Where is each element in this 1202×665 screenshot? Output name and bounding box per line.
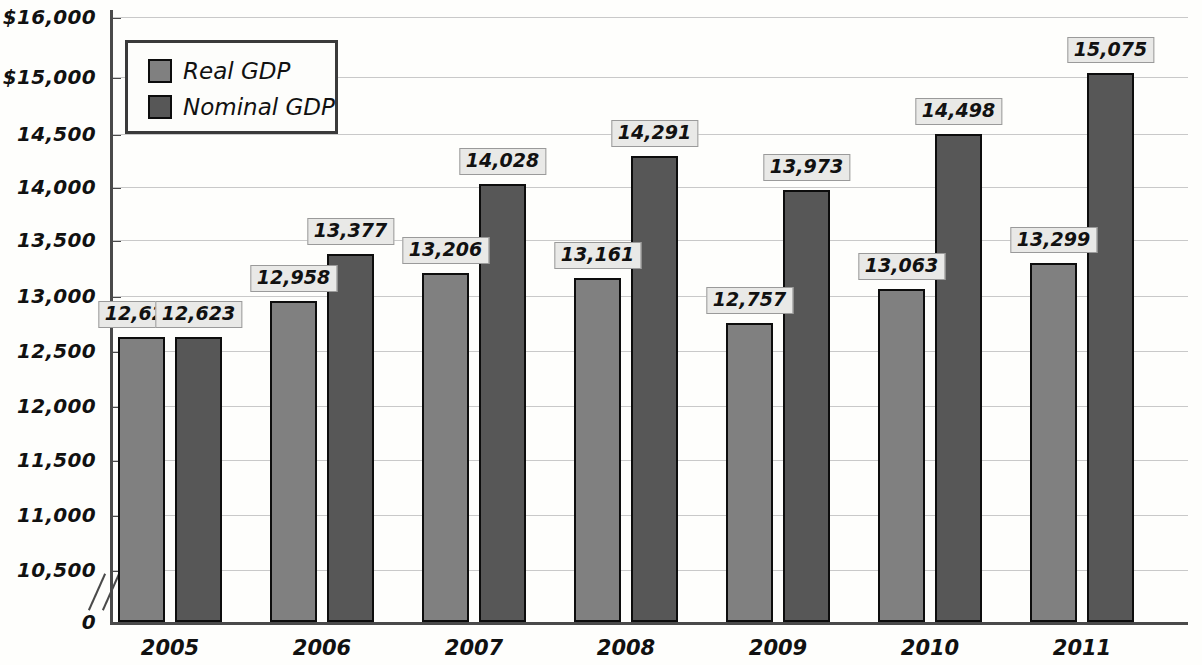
y-axis-tick-label: 13,000 — [17, 284, 96, 308]
y-axis-tick-label: $16,000 — [3, 5, 96, 29]
value-label-2006-nominal-gdp: 13,377 — [307, 218, 394, 245]
y-axis-tick-label: 14,500 — [17, 122, 96, 146]
y-axis-tick-label: 0 — [82, 610, 96, 634]
value-label-2010-nominal-gdp: 14,498 — [915, 98, 1002, 125]
x-axis-label-2011: 2011 — [1053, 636, 1111, 660]
bar-2009-nominal-gdp — [783, 190, 830, 622]
y-axis-tick-label: 10,500 — [17, 558, 96, 582]
value-label-2008-nominal-gdp: 14,291 — [611, 120, 698, 147]
value-label-2007-real-gdp: 13,206 — [402, 237, 489, 264]
value-label-2008-real-gdp: 13,161 — [554, 242, 641, 269]
bar-2008-real-gdp — [574, 278, 621, 622]
legend-label-real-gdp: Real GDP — [183, 58, 290, 84]
y-axis-tick-label: $15,000 — [3, 65, 96, 89]
legend-item-nominal-gdp: Nominal GDP — [148, 89, 335, 125]
bar-2006-nominal-gdp — [327, 254, 374, 622]
legend-swatch-real-gdp-icon — [148, 59, 172, 83]
y-axis-tick-label: 13,500 — [17, 228, 96, 252]
x-axis-line — [110, 622, 1188, 625]
y-axis-tick-label: 12,500 — [17, 339, 96, 363]
x-axis-label-2005: 2005 — [141, 636, 199, 660]
legend-swatch-nominal-gdp-icon — [148, 95, 172, 119]
x-axis-label-2010: 2010 — [901, 636, 959, 660]
bar-2011-nominal-gdp — [1087, 73, 1134, 623]
value-label-2010-real-gdp: 13,063 — [858, 253, 945, 280]
bar-2011-real-gdp — [1030, 263, 1077, 622]
value-label-2011-real-gdp: 13,299 — [1010, 227, 1097, 254]
bar-2010-nominal-gdp — [935, 134, 982, 622]
x-axis-label-2009: 2009 — [749, 636, 807, 660]
bar-2005-real-gdp — [118, 337, 165, 622]
legend-label-nominal-gdp: Nominal GDP — [183, 94, 335, 120]
bar-2008-nominal-gdp — [631, 156, 678, 622]
x-axis-label-2008: 2008 — [597, 636, 655, 660]
gdp-bar-chart: $16,000$15,00014,50014,00013,50013,00012… — [0, 0, 1202, 665]
value-label-2011-nominal-gdp: 15,075 — [1067, 37, 1154, 64]
bar-2005-nominal-gdp — [175, 337, 222, 622]
value-label-2006-real-gdp: 12,958 — [250, 265, 337, 292]
gridline — [113, 17, 1188, 18]
x-axis-label-2007: 2007 — [445, 636, 503, 660]
chart-legend: Real GDP Nominal GDP — [125, 40, 338, 134]
x-axis-label-2006: 2006 — [293, 636, 351, 660]
bar-2006-real-gdp — [270, 301, 317, 622]
y-axis-tick-label: 14,000 — [17, 175, 96, 199]
y-axis-tick-label: 12,000 — [17, 394, 96, 418]
y-axis-tick-label: 11,000 — [17, 503, 96, 527]
bar-2009-real-gdp — [726, 323, 773, 622]
value-label-2009-nominal-gdp: 13,973 — [763, 154, 850, 181]
value-label-2007-nominal-gdp: 14,028 — [459, 148, 546, 175]
bar-2010-real-gdp — [878, 289, 925, 622]
legend-item-real-gdp: Real GDP — [148, 53, 335, 89]
bar-2007-real-gdp — [422, 273, 469, 622]
value-label-2009-real-gdp: 12,757 — [706, 287, 793, 314]
y-axis-tick-label: 11,500 — [17, 448, 96, 472]
y-axis-labels: $16,000$15,00014,50014,00013,50013,00012… — [0, 0, 96, 665]
value-label-2005-nominal-gdp: 12,623 — [155, 301, 242, 328]
